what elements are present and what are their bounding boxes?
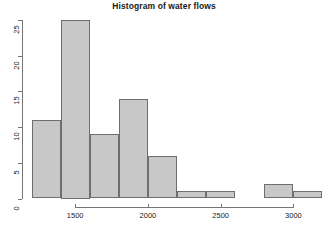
y-axis-line bbox=[22, 20, 23, 199]
x-axis-tick bbox=[293, 204, 294, 208]
histogram-bar bbox=[90, 134, 119, 198]
histogram-bar bbox=[32, 120, 61, 199]
y-axis-tick-label: 15 bbox=[12, 91, 21, 111]
plot-panel: 05101520251500200025003000 bbox=[0, 0, 328, 225]
histogram-bar bbox=[119, 99, 148, 199]
histogram-bar bbox=[148, 156, 177, 199]
histogram-bar bbox=[264, 184, 293, 198]
x-axis-tick-label: 3000 bbox=[273, 211, 313, 220]
x-axis-tick-label: 1500 bbox=[55, 211, 95, 220]
y-axis-tick-label: 20 bbox=[12, 55, 21, 75]
y-axis-tick-label: 25 bbox=[12, 20, 21, 40]
x-axis-tick-label: 2500 bbox=[201, 211, 241, 220]
y-axis-tick-label: 10 bbox=[12, 127, 21, 147]
x-axis-tick bbox=[221, 204, 222, 208]
histogram-bar bbox=[293, 191, 322, 198]
x-axis-line bbox=[75, 207, 293, 208]
x-axis-tick bbox=[75, 204, 76, 208]
x-axis-tick bbox=[148, 204, 149, 208]
histogram-bar bbox=[206, 191, 235, 198]
histogram-bar bbox=[61, 20, 90, 199]
y-axis-tick-label: 0 bbox=[12, 198, 21, 218]
histogram-bar bbox=[177, 191, 206, 198]
x-axis-tick-label: 2000 bbox=[128, 211, 168, 220]
histogram-plot: Histogram of water flows 051015202515002… bbox=[0, 0, 328, 225]
y-axis-tick-label: 5 bbox=[12, 162, 21, 182]
